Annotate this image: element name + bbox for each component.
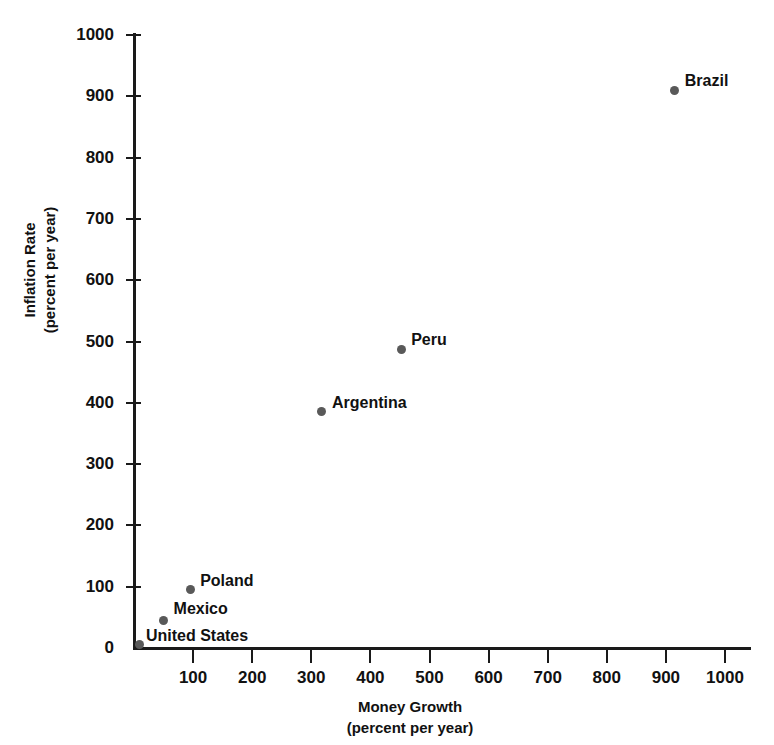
x-tick-400 bbox=[369, 648, 371, 663]
x-tick-label-400: 400 bbox=[356, 668, 384, 687]
x-axis-title-main: Money Growth bbox=[260, 696, 560, 717]
y-tick-label-0: 0 bbox=[52, 638, 114, 658]
y-tick-200 bbox=[126, 524, 141, 526]
x-tick-label-1000: 1000 bbox=[706, 668, 744, 687]
scatter-chart-figure: 01002003004005006007008009001000 1002003… bbox=[0, 0, 774, 745]
y-tick-label-500: 500 bbox=[52, 332, 114, 352]
y-tick-600 bbox=[126, 279, 141, 281]
data-point-label-mexico: Mexico bbox=[174, 600, 228, 618]
x-axis-line bbox=[133, 647, 751, 650]
y-tick-label-600: 600 bbox=[52, 270, 114, 290]
x-tick-label-300: 300 bbox=[297, 668, 325, 687]
x-axis-title-sub: (percent per year) bbox=[260, 717, 560, 738]
data-point-mexico[interactable] bbox=[159, 616, 168, 625]
y-tick-label-100: 100 bbox=[52, 577, 114, 597]
data-point-peru[interactable] bbox=[397, 345, 406, 354]
x-tick-1000 bbox=[724, 648, 726, 663]
x-tick-label-700: 700 bbox=[534, 668, 562, 687]
y-tick-label-300: 300 bbox=[52, 454, 114, 474]
data-point-argentina[interactable] bbox=[317, 407, 326, 416]
x-tick-label-wrap-1000: 1000 bbox=[690, 668, 760, 688]
x-tick-100 bbox=[192, 648, 194, 663]
x-tick-600 bbox=[488, 648, 490, 663]
x-tick-label-100: 100 bbox=[179, 668, 207, 687]
y-tick-label-wrap-800: 800 bbox=[52, 148, 114, 166]
y-tick-100 bbox=[126, 586, 141, 588]
y-axis-title-main: Inflation Rate bbox=[20, 170, 40, 370]
data-point-label-poland: Poland bbox=[200, 572, 253, 590]
data-point-brazil[interactable] bbox=[670, 86, 679, 95]
x-tick-200 bbox=[251, 648, 253, 663]
x-tick-500 bbox=[429, 648, 431, 663]
x-tick-800 bbox=[606, 648, 608, 663]
y-tick-300 bbox=[126, 463, 141, 465]
data-point-label-argentina: Argentina bbox=[332, 394, 407, 412]
y-tick-label-wrap-900: 900 bbox=[52, 86, 114, 104]
data-point-label-peru: Peru bbox=[411, 331, 447, 349]
data-point-label-united-states: United States bbox=[146, 627, 248, 645]
data-point-poland[interactable] bbox=[186, 585, 195, 594]
y-axis-title: Inflation Rate (percent per year) bbox=[20, 170, 60, 370]
y-tick-label-800: 800 bbox=[52, 148, 114, 168]
y-tick-label-wrap-0: 0 bbox=[52, 638, 114, 656]
y-tick-label-700: 700 bbox=[52, 209, 114, 229]
x-tick-900 bbox=[665, 648, 667, 663]
x-tick-300 bbox=[310, 648, 312, 663]
y-tick-label-wrap-400: 400 bbox=[52, 393, 114, 411]
x-tick-label-200: 200 bbox=[238, 668, 266, 687]
y-axis-title-sub: (percent per year) bbox=[40, 170, 60, 370]
y-tick-label-wrap-700: 700 bbox=[52, 209, 114, 227]
y-tick-label-wrap-600: 600 bbox=[52, 270, 114, 288]
y-tick-1000 bbox=[126, 34, 141, 36]
data-point-label-brazil: Brazil bbox=[685, 72, 729, 90]
y-tick-label-wrap-200: 200 bbox=[52, 515, 114, 533]
y-tick-700 bbox=[126, 218, 141, 220]
y-tick-900 bbox=[126, 95, 141, 97]
x-axis-title: Money Growth (percent per year) bbox=[260, 696, 560, 738]
y-tick-label-wrap-500: 500 bbox=[52, 332, 114, 350]
x-tick-700 bbox=[547, 648, 549, 663]
x-tick-label-500: 500 bbox=[415, 668, 443, 687]
x-tick-label-600: 600 bbox=[474, 668, 502, 687]
y-tick-label-900: 900 bbox=[52, 86, 114, 106]
x-tick-label-800: 800 bbox=[593, 668, 621, 687]
y-tick-label-wrap-1000: 1000 bbox=[52, 25, 114, 43]
y-tick-label-200: 200 bbox=[52, 515, 114, 535]
y-tick-800 bbox=[126, 157, 141, 159]
y-tick-label-1000: 1000 bbox=[52, 25, 114, 45]
y-tick-500 bbox=[126, 341, 141, 343]
y-tick-label-wrap-300: 300 bbox=[52, 454, 114, 472]
y-tick-400 bbox=[126, 402, 141, 404]
x-tick-label-900: 900 bbox=[652, 668, 680, 687]
y-tick-label-wrap-100: 100 bbox=[52, 577, 114, 595]
y-tick-label-400: 400 bbox=[52, 393, 114, 413]
